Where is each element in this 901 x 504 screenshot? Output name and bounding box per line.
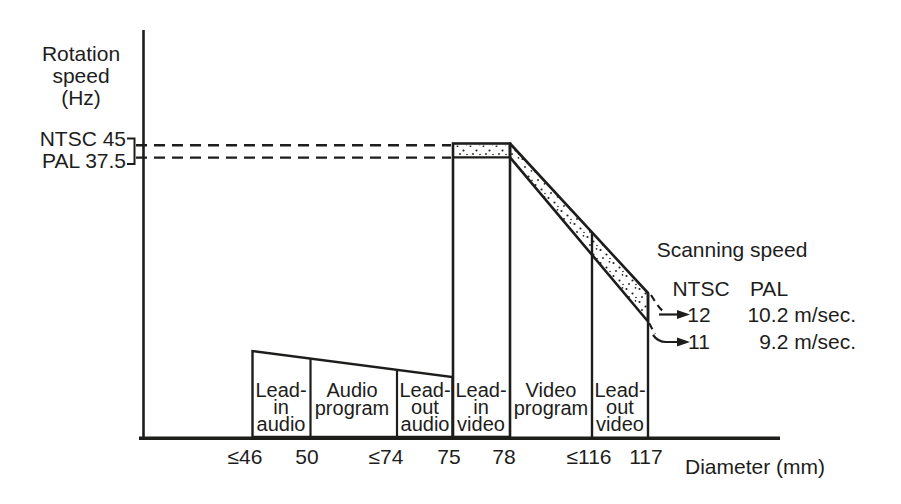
zone-label-line: video xyxy=(596,413,644,435)
x-tick-78: 78 xyxy=(492,445,515,468)
zone-label-lead-out-video: Lead- out video xyxy=(594,379,645,435)
scanning-speed-title: Scanning speed xyxy=(657,238,808,261)
scanning-arrow-lower-shaft xyxy=(653,335,678,342)
x-tick-74: ≤74 xyxy=(369,445,404,468)
x-tick-46: ≤46 xyxy=(228,445,263,468)
y-axis-title-line2: speed xyxy=(52,64,109,87)
zone-label-line: program xyxy=(315,397,389,419)
y-axis-title-line1: Rotation xyxy=(42,42,120,65)
x-tick-116: ≤116 xyxy=(566,445,611,468)
x-tick-75: 75 xyxy=(437,445,460,468)
zone-label-line: audio xyxy=(401,413,450,435)
scanning-col-ntsc: NTSC xyxy=(672,277,729,300)
zone-label-line: program xyxy=(514,397,588,419)
scanning-arrow-lower-dash xyxy=(649,323,655,334)
scanning-speed-table: Scanning speed NTSC PAL 12 10.2 m/sec. 1… xyxy=(657,238,856,353)
x-axis-title: Diameter (mm) xyxy=(685,455,825,478)
zone-label-line: audio xyxy=(257,413,306,435)
y-mark-ntsc: NTSC 45 xyxy=(40,127,126,150)
scanning-row1-pal: 10.2 m/sec. xyxy=(747,303,856,326)
y-axis-title-line3: (Hz) xyxy=(61,86,101,109)
rotation-speed-diagram: Rotation speed (Hz) NTSC 45 PAL 37.5 ≤46… xyxy=(0,0,901,504)
lead-in-video-stipple-strip xyxy=(455,146,509,157)
scanning-col-pal: PAL xyxy=(750,277,788,300)
x-tick-50: 50 xyxy=(295,445,318,468)
figure-page: Rotation speed (Hz) NTSC 45 PAL 37.5 ≤46… xyxy=(0,0,901,504)
video-speed-band xyxy=(510,144,648,322)
scanning-row2-pal: 9.2 m/sec. xyxy=(759,330,856,353)
zone-label-video-program: Video program xyxy=(514,379,588,419)
x-tick-117: 117 xyxy=(629,445,662,468)
scanning-row2-ntsc: 11 xyxy=(688,330,710,353)
zone-label-line: video xyxy=(457,413,505,435)
ntsc-pal-bracket xyxy=(127,139,135,165)
y-mark-pal: PAL 37.5 xyxy=(42,149,126,172)
scanning-arrow-upper-dash xyxy=(651,295,663,311)
scanning-row1-ntsc: 12 xyxy=(687,303,710,326)
